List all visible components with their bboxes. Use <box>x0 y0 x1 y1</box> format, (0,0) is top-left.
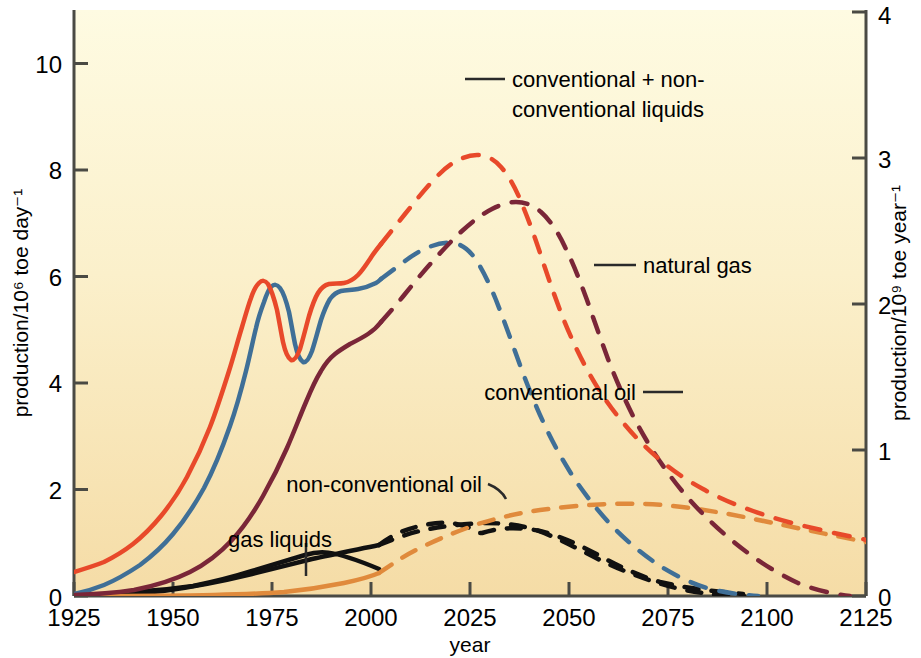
right-tick-label: 1 <box>878 438 891 465</box>
chart-figure: 0 2 4 6 8 10 0 1 2 3 4 1925 1950 1975 20… <box>0 0 921 658</box>
left-tick-label: 6 <box>49 264 62 291</box>
x-tick-label: 1975 <box>245 604 298 631</box>
right-tick-label: 3 <box>878 146 891 173</box>
right-tick-label: 4 <box>878 2 891 29</box>
x-tick-label: 2075 <box>641 604 694 631</box>
annotation-conventional-oil: conventional oil <box>484 380 636 405</box>
left-tick-label: 2 <box>49 477 62 504</box>
x-tick-label: 2025 <box>443 604 496 631</box>
x-tick-label: 2050 <box>542 604 595 631</box>
y-axis-title-left: production/10⁶ toe day⁻¹ <box>9 189 32 418</box>
x-tick-label: 2000 <box>344 604 397 631</box>
left-tick-labels: 0 2 4 6 8 10 <box>35 51 62 611</box>
x-tick-label: 1950 <box>146 604 199 631</box>
x-tick-label: 2125 <box>839 604 892 631</box>
x-tick-label: 1925 <box>47 604 100 631</box>
production-line-chart: 0 2 4 6 8 10 0 1 2 3 4 1925 1950 1975 20… <box>0 0 921 658</box>
x-axis-title: year <box>450 633 491 656</box>
y-axis-title-right: production/10⁹ toe year⁻¹ <box>887 185 910 421</box>
annotation-liquids-line1: conventional + non- <box>512 67 705 92</box>
left-tick-label: 10 <box>35 51 62 78</box>
x-tick-label: 2100 <box>740 604 793 631</box>
left-tick-label: 8 <box>49 157 62 184</box>
annotation-natural-gas: natural gas <box>643 253 752 278</box>
annotation-liquids-line2: conventional liquids <box>512 97 704 122</box>
annotation-non-conventional-oil: non-conventional oil <box>286 472 482 497</box>
left-tick-label: 4 <box>49 370 62 397</box>
annotation-gas-liquids: gas liquids <box>228 527 332 552</box>
x-tick-labels: 1925 1950 1975 2000 2025 2050 2075 2100 … <box>47 604 892 631</box>
